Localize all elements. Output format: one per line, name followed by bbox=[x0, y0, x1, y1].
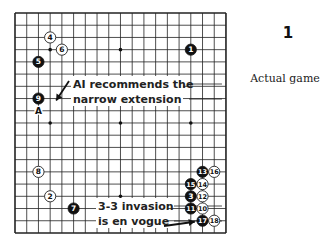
move-number: 13 bbox=[198, 168, 207, 176]
move-number: 15 bbox=[186, 181, 196, 189]
star-point bbox=[48, 121, 52, 125]
star-point bbox=[119, 48, 123, 52]
black-stone-17: 17 bbox=[197, 215, 208, 226]
white-stone-18: 18 bbox=[209, 215, 220, 226]
go-board: AI recommends thenarrow extension3-3 inv… bbox=[0, 0, 240, 247]
move-number: 8 bbox=[36, 167, 41, 176]
annotation-text: is en vogue bbox=[98, 215, 169, 228]
white-stone-6: 6 bbox=[56, 44, 67, 55]
white-stone-4: 4 bbox=[45, 32, 56, 43]
black-stone-13: 13 bbox=[197, 166, 208, 177]
move-number: 5 bbox=[36, 57, 41, 66]
point-marker-label: A bbox=[35, 106, 42, 116]
move-number: 12 bbox=[198, 193, 207, 201]
black-stone-15: 15 bbox=[185, 178, 196, 189]
white-stone-2: 2 bbox=[45, 191, 56, 202]
star-point bbox=[48, 48, 52, 52]
white-stone-14: 14 bbox=[197, 178, 208, 189]
stones: 123456789101112131415161718 bbox=[33, 32, 220, 227]
annotation-label: AI recommends thenarrow extension bbox=[56, 76, 222, 106]
black-stone-9: 9 bbox=[33, 93, 44, 104]
figure-number: 1 bbox=[268, 24, 308, 42]
annotation-text: AI recommends the bbox=[73, 78, 193, 91]
star-point bbox=[119, 195, 123, 199]
white-stone-10: 10 bbox=[197, 203, 208, 214]
move-number: 6 bbox=[59, 45, 64, 54]
white-stone-16: 16 bbox=[209, 166, 220, 177]
black-stone-7: 7 bbox=[68, 203, 79, 214]
white-stone-8: 8 bbox=[33, 166, 44, 177]
black-stone-3: 3 bbox=[185, 191, 196, 202]
move-number: 9 bbox=[36, 94, 41, 103]
move-number: 7 bbox=[71, 204, 76, 213]
move-number: 1 bbox=[188, 45, 193, 54]
black-stone-5: 5 bbox=[33, 56, 44, 67]
move-number: 3 bbox=[188, 192, 193, 201]
white-stone-12: 12 bbox=[197, 191, 208, 202]
move-number: 10 bbox=[198, 205, 208, 213]
star-point bbox=[119, 121, 123, 125]
move-number: 4 bbox=[48, 33, 53, 42]
move-number: 11 bbox=[186, 205, 196, 213]
annotation-text: narrow extension bbox=[73, 93, 181, 106]
black-stone-11: 11 bbox=[185, 203, 196, 214]
annotation-text: 3-3 invasion bbox=[98, 200, 174, 213]
markers: A bbox=[34, 106, 42, 117]
move-number: 18 bbox=[210, 217, 220, 225]
move-number: 2 bbox=[48, 192, 53, 201]
star-point bbox=[189, 121, 193, 125]
figure-caption: Actual game bbox=[242, 72, 328, 85]
move-number: 14 bbox=[198, 181, 208, 189]
black-stone-1: 1 bbox=[185, 44, 196, 55]
move-number: 17 bbox=[198, 217, 207, 225]
move-number: 16 bbox=[210, 168, 220, 176]
